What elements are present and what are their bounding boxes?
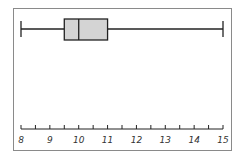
tick-label: 14 [188,135,200,145]
box-plot: 89101112131415 [0,0,241,160]
tick-label: 12 [131,135,143,145]
tick-label: 8 [18,135,24,145]
tick-label: 9 [47,135,53,145]
number-line-axis: 89101112131415 [18,125,229,145]
tick-label: 10 [73,135,85,145]
tick-label: 13 [160,135,172,145]
iqr-box [64,19,107,40]
tick-label: 11 [102,135,113,145]
box-and-whisker [21,19,223,40]
tick-label: 15 [217,135,229,145]
